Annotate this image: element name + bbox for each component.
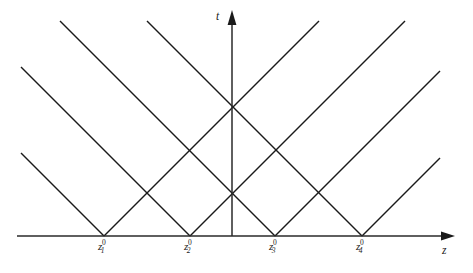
tick-subscript: 2	[187, 246, 191, 255]
characteristic-line-cone-4-left	[147, 21, 362, 236]
characteristic-line-cone-2-left	[21, 67, 190, 236]
spacetime-diagram: z01z02z03z04 t z	[0, 0, 473, 273]
characteristic-line-cone-3-right	[275, 71, 440, 236]
tick-subscript: 1	[101, 246, 105, 255]
tick-label-z2: z02	[184, 241, 196, 252]
t-axis-label: t	[216, 11, 219, 23]
characteristic-line-cone-1-left	[21, 153, 104, 236]
characteristic-line-cone-4-right	[362, 158, 440, 236]
characteristic-line-cone-1-right	[104, 21, 319, 236]
characteristic-lines-group	[21, 21, 440, 236]
characteristic-line-cone-2-right	[190, 21, 405, 236]
right-arrow-icon	[441, 232, 455, 241]
tick-subscript: 4	[359, 246, 363, 255]
diagram-canvas	[0, 0, 473, 273]
tick-label-z1: z01	[98, 241, 110, 252]
characteristic-line-cone-3-left	[60, 21, 275, 236]
up-arrow-icon	[228, 10, 237, 25]
tick-label-z3: z03	[269, 241, 281, 252]
tick-label-z4: z04	[356, 241, 368, 252]
z-axis-label: z	[442, 245, 446, 257]
tick-subscript: 3	[272, 246, 276, 255]
